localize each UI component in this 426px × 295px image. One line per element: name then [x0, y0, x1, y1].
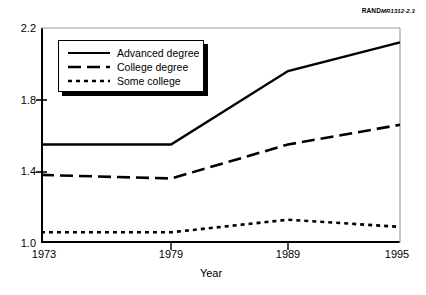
source-tag-number: MR1312-2.3: [381, 8, 415, 14]
source-tag-brand: RAND: [362, 7, 381, 14]
x-axis-title: Year: [0, 268, 426, 279]
legend-key-solid-line: [68, 47, 110, 59]
legend-label-advanced-degree: Advanced degree: [117, 48, 199, 59]
x-tick-label-3: 1989: [276, 249, 300, 260]
y-tick-label-2: 1.4: [21, 166, 36, 177]
x-tick-label-4: 1995: [385, 249, 409, 260]
y-tick-label-4: 2.2: [21, 23, 36, 34]
legend-key-dotted-line: [68, 75, 110, 87]
chart-canvas: RANDMR1312-2.3 1.0 1.4 1.8 2.2: [0, 0, 426, 295]
legend-key-dashed-line: [68, 61, 110, 73]
legend-label-college-degree: College degree: [117, 62, 188, 73]
x-tick-label-1: 1973: [32, 249, 56, 260]
y-tick-label-3: 1.8: [21, 95, 36, 106]
x-axis-title-text: Year: [200, 268, 222, 279]
legend-item-some-college[interactable]: Some college: [59, 74, 203, 88]
legend: Advanced degree College degree Some coll…: [58, 40, 204, 92]
source-tag: RANDMR1312-2.3: [362, 8, 415, 15]
x-axis-labels: 1973 1979 1989 1995: [0, 249, 426, 265]
x-tick-label-2: 1979: [159, 249, 183, 260]
legend-item-college-degree[interactable]: College degree: [59, 60, 203, 74]
legend-label-some-college: Some college: [117, 76, 181, 87]
legend-item-advanced-degree[interactable]: Advanced degree: [59, 46, 203, 60]
